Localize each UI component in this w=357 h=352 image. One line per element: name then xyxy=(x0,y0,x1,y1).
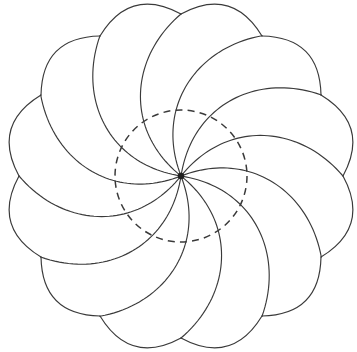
spiral-spoke-arc xyxy=(140,14,181,176)
outer-petal-arc xyxy=(41,36,100,95)
outer-petal-arc xyxy=(181,316,262,348)
outer-petal-arc xyxy=(262,36,321,95)
spiral-spoke-arc xyxy=(41,176,181,264)
spiral-spoke-arc xyxy=(181,176,269,316)
outer-petal-arc xyxy=(9,176,41,257)
spiral-spoke-arc xyxy=(181,176,222,338)
spiral-spoke-arc xyxy=(19,176,181,217)
outer-petal-arc xyxy=(262,257,321,316)
outer-petal-arc xyxy=(321,176,353,257)
outer-petal-arc xyxy=(100,4,181,36)
outer-petal-arc xyxy=(9,95,41,176)
rosette-spiral-svg xyxy=(0,0,357,352)
figure-canvas xyxy=(0,0,357,352)
outer-petal-arc xyxy=(181,4,262,36)
spiral-spoke-arc xyxy=(93,36,181,176)
outer-petal-arc xyxy=(321,95,353,176)
spiral-spoke-arc xyxy=(181,88,321,176)
center-hub-dot xyxy=(178,173,184,179)
spiral-spoke-arc xyxy=(181,135,343,176)
outer-petal-arc xyxy=(100,316,181,348)
outer-petal-arc xyxy=(41,257,100,316)
